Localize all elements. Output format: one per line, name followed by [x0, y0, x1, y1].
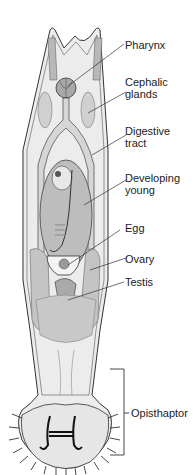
monogenean-diagram	[0, 0, 195, 475]
label-pharynx: Pharynx	[125, 39, 165, 51]
label-digestive-line2: tract	[125, 137, 170, 149]
cephalic-gland-left	[38, 92, 52, 128]
label-developing-young: Developing young	[125, 172, 180, 196]
label-ovary: Ovary	[125, 253, 154, 265]
label-cephalic-line1: Cephalic	[125, 76, 168, 88]
label-digestive-tract: Digestive tract	[125, 125, 170, 149]
label-cephalic-glands: Cephalic glands	[125, 76, 168, 100]
label-opisthaptor: Opisthaptor	[131, 407, 188, 419]
label-digestive-line1: Digestive	[125, 125, 170, 137]
label-developing-line1: Developing	[125, 172, 180, 184]
label-cephalic-line2: glands	[125, 88, 168, 100]
label-developing-line2: young	[125, 184, 180, 196]
opisthaptor-bracket	[110, 369, 129, 455]
label-testis: Testis	[125, 276, 153, 288]
label-egg: Egg	[125, 222, 145, 234]
